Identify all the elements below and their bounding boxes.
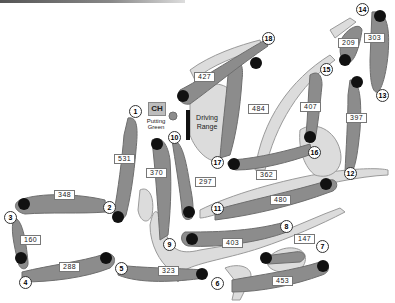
yardage-hole-17: 484 [248, 104, 269, 114]
green-hole-1 [112, 211, 124, 223]
hole-number-18: 18 [262, 32, 275, 45]
hole-number-5: 5 [115, 262, 128, 275]
green-hole-4 [100, 252, 112, 264]
green-hole-16 [228, 158, 240, 170]
green-hole-2 [18, 198, 30, 210]
putting-green-circle [169, 112, 177, 120]
hole-number-10: 10 [168, 131, 181, 144]
yardage-hole-5: 323 [158, 266, 179, 276]
green-hole-8 [186, 233, 198, 245]
yardage-hole-18: 427 [194, 72, 215, 82]
fairway-hole-13 [370, 12, 389, 92]
yardage-hole-12: 397 [346, 113, 367, 123]
green-hole-9 [151, 138, 163, 150]
yardage-hole-7: 147 [294, 234, 315, 244]
hole-number-8: 8 [280, 220, 293, 233]
hole-number-6: 6 [211, 277, 224, 290]
yardage-hole-14: 209 [338, 38, 359, 48]
green-hole-10 [183, 206, 195, 218]
hole-number-17: 17 [211, 156, 224, 169]
yardage-hole-10: 297 [195, 177, 216, 187]
green-hole-12 [351, 76, 363, 88]
hole-number-1: 1 [129, 105, 142, 118]
green-hole-13 [374, 10, 386, 22]
green-hole-15 [304, 131, 316, 143]
yardage-hole-1: 531 [114, 154, 135, 164]
yardage-hole-11: 480 [270, 195, 291, 205]
hole-number-14: 14 [356, 3, 369, 16]
yardage-hole-3: 160 [20, 235, 41, 245]
golf-course-map: CH Putting Green Driving Range 531 348 1… [0, 0, 395, 303]
green-hole-17 [250, 57, 262, 69]
clubhouse-label: CH [148, 102, 166, 116]
yardage-hole-9: 370 [146, 168, 167, 178]
putting-green-label: Putting Green [142, 118, 170, 130]
rough-area-left-bunker [138, 189, 153, 221]
driving-range-label: Driving Range [193, 113, 221, 131]
driving-range-tee-line [186, 110, 190, 140]
hole-number-2: 2 [103, 201, 116, 214]
yardage-hole-4: 288 [59, 262, 80, 272]
course-drawing [0, 0, 395, 303]
hole-number-13: 13 [376, 89, 389, 102]
green-hole-5 [196, 268, 208, 280]
green-hole-7 [260, 252, 272, 264]
hole-number-16: 16 [308, 146, 321, 159]
yardage-hole-15: 407 [300, 102, 321, 112]
yardage-hole-6: 453 [272, 276, 293, 286]
yardage-hole-13: 303 [364, 33, 385, 43]
green-hole-18 [177, 90, 189, 102]
green-hole-6 [317, 260, 329, 272]
fairway-hole-1 [114, 118, 137, 220]
green-hole-3 [15, 252, 27, 264]
green-hole-14 [339, 54, 351, 66]
yardage-hole-16: 362 [256, 170, 277, 180]
hole-number-9: 9 [163, 238, 176, 251]
hole-number-11: 11 [211, 202, 224, 215]
hole-number-7: 7 [316, 240, 329, 253]
yardage-hole-8: 403 [222, 238, 243, 248]
hole-number-4: 4 [19, 276, 32, 289]
green-hole-11 [320, 178, 332, 190]
hole-number-15: 15 [320, 63, 333, 76]
hole-number-3: 3 [4, 211, 17, 224]
yardage-hole-2: 348 [54, 190, 75, 200]
fairway-hole-12 [345, 80, 361, 172]
hole-number-12: 12 [344, 167, 357, 180]
